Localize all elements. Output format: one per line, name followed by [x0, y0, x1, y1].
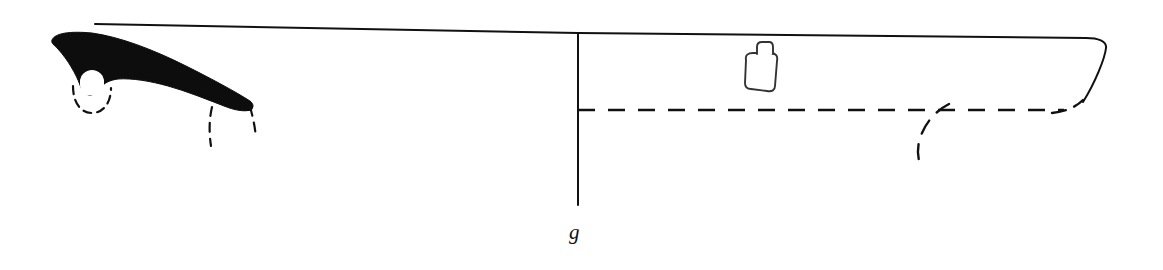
lug-tab-outline	[757, 42, 773, 54]
white-notch-blend	[80, 71, 104, 95]
lug-body-outline	[745, 53, 777, 91]
page-background	[0, 0, 1163, 270]
vessel-profile-drawing	[0, 0, 1163, 270]
figure-root: g	[0, 0, 1163, 270]
